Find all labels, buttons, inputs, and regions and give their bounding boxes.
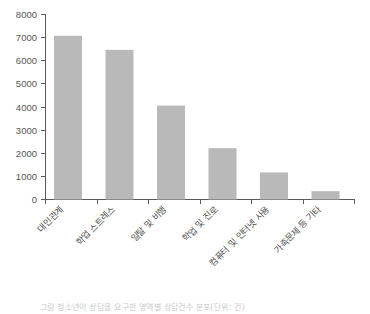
- x-axis-ticks: [46, 200, 355, 205]
- y-tick-label: 6000: [16, 55, 37, 66]
- y-axis-tick-labels: 8000 7000 6000 5000 4000 3000 2000 1000 …: [16, 9, 37, 205]
- y-axis-ticks: [41, 15, 46, 200]
- x-category-label: 학업 및 진로: [180, 204, 220, 244]
- y-tick-label: 2000: [16, 148, 37, 159]
- y-tick-label: 8000: [16, 9, 37, 20]
- y-tick-label: 4000: [16, 102, 37, 113]
- bar-chart-figure: 8000 7000 6000 5000 4000 3000 2000 1000 …: [0, 0, 370, 314]
- bar-4: [260, 172, 288, 199]
- x-category-label: 가족문제 등 기타: [272, 204, 323, 255]
- x-category-label: 일탈 및 비행: [128, 204, 168, 244]
- bar-series: [54, 36, 340, 200]
- bar-1: [106, 50, 134, 200]
- bar-2: [157, 106, 185, 200]
- figure-caption: 그림 청소년이 상담을 요구한 영역별 상담건수 분포(단위: 건): [40, 301, 245, 312]
- bar-5: [312, 191, 340, 199]
- bar-0: [54, 36, 82, 200]
- chart-plot-area: 8000 7000 6000 5000 4000 3000 2000 1000 …: [0, 0, 370, 314]
- x-axis-category-labels: 대인관계 학업 스트레스 일탈 및 비행 학업 및 진로 컴퓨터 및 인터넷 사…: [35, 204, 324, 269]
- y-tick-label: 7000: [16, 32, 37, 43]
- figure-caption-strip: 그림 청소년이 상담을 요구한 영역별 상담건수 분포(단위: 건): [0, 300, 370, 314]
- bar-3: [209, 148, 237, 199]
- y-tick-label: 1000: [16, 171, 37, 182]
- y-tick-label: 3000: [16, 125, 37, 136]
- x-category-label: 학업 스트레스: [74, 204, 117, 247]
- x-category-label: 대인관계: [35, 204, 65, 234]
- y-tick-label: 0: [32, 194, 37, 205]
- y-tick-label: 5000: [16, 78, 37, 89]
